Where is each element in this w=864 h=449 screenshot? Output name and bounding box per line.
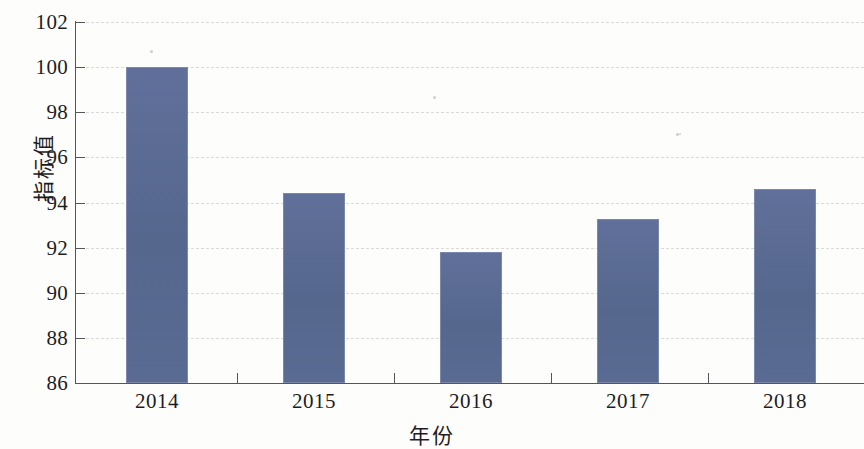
y-tick-label: 102 [8, 10, 68, 35]
y-tick-98 [76, 112, 85, 113]
y-tick-88 [76, 338, 85, 339]
y-tick-label-group: 102 100 98 96 94 92 90 88 86 [0, 0, 68, 449]
gridline-94 [76, 203, 864, 204]
gridline-102 [76, 22, 864, 23]
y-tick-92 [76, 248, 85, 249]
y-tick-label: 100 [8, 55, 68, 80]
x-axis-title: 年份 [0, 419, 864, 449]
y-tick-102 [76, 22, 85, 23]
bar-2017 [597, 219, 659, 383]
y-tick-label: 92 [8, 235, 68, 260]
y-tick-label: 90 [8, 280, 68, 305]
x-tick-label-2014: 2014 [97, 389, 217, 414]
y-tick-100 [76, 67, 85, 68]
x-axis-spine [75, 383, 864, 384]
x-tick-minor [708, 373, 709, 383]
chart-figure: 102 100 98 96 94 92 90 88 86 2014 2015 2… [0, 0, 864, 449]
y-tick-label: 88 [8, 325, 68, 350]
x-tick-label-2016: 2016 [411, 389, 531, 414]
y-tick-86 [76, 383, 85, 384]
y-axis-title: 指标值 [27, 117, 57, 217]
y-tick-96 [76, 157, 85, 158]
bar-2014 [126, 67, 188, 383]
gridline-98 [76, 112, 864, 113]
y-tick-label: 86 [8, 371, 68, 396]
x-tick-label-2018: 2018 [725, 389, 845, 414]
y-tick-94 [76, 203, 85, 204]
x-tick-minor [551, 373, 552, 383]
plot-area [76, 22, 864, 383]
bar-2015 [283, 193, 345, 383]
bar-2016 [440, 252, 502, 383]
gridline-100 [76, 67, 864, 68]
x-tick-minor [394, 373, 395, 383]
x-tick-label-2017: 2017 [568, 389, 688, 414]
y-tick-90 [76, 293, 85, 294]
bar-2018 [754, 189, 816, 383]
gridline-92 [76, 248, 864, 249]
x-tick-label-2015: 2015 [254, 389, 374, 414]
x-tick-minor [237, 373, 238, 383]
gridline-96 [76, 157, 864, 158]
